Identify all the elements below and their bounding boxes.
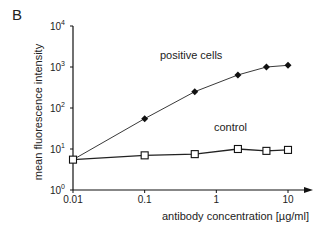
series-group [70,62,292,163]
panel-label: B [12,6,22,23]
point-positive-cells-3 [234,71,241,78]
x-tick-label-0: 0.01 [63,194,83,205]
point-control-5 [285,146,292,153]
point-control-2 [191,151,198,158]
point-positive-cells-4 [263,64,270,71]
x-tick-label-2: 1 [214,194,220,205]
y-tick-label-3: 103 [50,60,65,73]
point-control-1 [141,152,148,159]
x-tick-label-3: 10 [282,194,294,205]
y-tick-label-2: 102 [50,101,65,114]
x-tick-label-1: 0.1 [138,194,152,205]
point-positive-cells-1 [141,115,148,122]
x-axis-label: antibody concentration [µg/ml] [162,210,309,222]
series-line-control [73,149,288,160]
annotation-positive-cells: positive cells [160,49,223,61]
chart: B 1001011021031040.010.1110 positive cel… [0,0,322,231]
point-control-0 [70,156,77,163]
point-positive-cells-5 [285,62,292,69]
y-tick-label-1: 101 [50,142,65,155]
point-positive-cells-2 [191,88,198,95]
annotation-control: control [214,121,247,133]
x-axis-arrow [304,187,313,193]
point-control-3 [234,146,241,153]
axes: 1001011021031040.010.1110 [50,19,313,205]
y-tick-label-4: 104 [50,19,65,32]
point-control-4 [263,147,270,154]
y-axis-label: mean fluorescence intensity [32,43,44,180]
series-line-positive-cells [73,65,288,159]
